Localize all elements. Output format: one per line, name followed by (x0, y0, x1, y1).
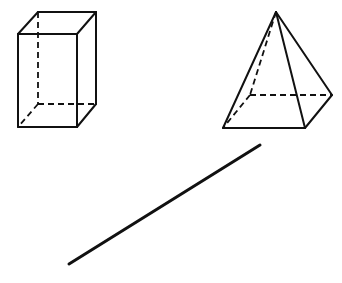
square-pyramid (223, 12, 332, 128)
visible-edge (77, 12, 96, 34)
line-segment (69, 145, 260, 264)
hidden-edge (18, 104, 38, 127)
visible-edge (276, 12, 305, 128)
visible-edge (77, 104, 96, 127)
visible-edge (305, 95, 332, 128)
hidden-edge (250, 12, 276, 95)
visible-edge (223, 12, 276, 128)
visible-edge (276, 12, 332, 95)
rectangular-prism (18, 12, 96, 127)
segment-line (69, 145, 260, 264)
visible-edge (18, 12, 38, 34)
diagram-canvas (0, 0, 342, 283)
